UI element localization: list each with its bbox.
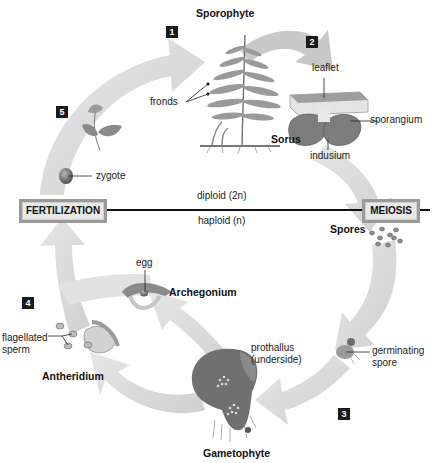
- archegonium-label: Archegonium: [169, 286, 237, 298]
- step-marker-3: 3: [338, 408, 350, 420]
- step-marker-5: 5: [56, 106, 68, 118]
- fronds-pointer: [186, 83, 209, 102]
- germinating-spore-label-line1: germinating: [372, 345, 424, 356]
- fern-life-cycle-diagram: [0, 0, 433, 463]
- arrow-to-fertilization: [40, 218, 90, 335]
- sporangium-label: sporangium: [370, 114, 422, 126]
- prothallus-label-line2: (underside): [251, 354, 302, 365]
- diploid-label: diploid (2n): [197, 190, 246, 202]
- germinating-spore-label: germinating spore: [372, 345, 424, 368]
- zygote-label: zygote: [96, 170, 125, 182]
- arrow-to-germinating-spore: [335, 240, 396, 350]
- zygote-illustration: [59, 168, 92, 184]
- fertilization-box: FERTILIZATION: [19, 199, 107, 223]
- gametophyte-label: Gametophyte: [203, 447, 270, 459]
- haploid-label: haploid (n): [198, 215, 245, 227]
- prothallus-label-line1: prothallus: [251, 342, 294, 353]
- leaflet-label: leaflet: [312, 62, 339, 74]
- spores-label: Spores: [330, 223, 366, 235]
- spores-illustration: [370, 227, 403, 247]
- sporophyte-fern-illustration: [200, 35, 281, 154]
- meiosis-box: MEIOSIS: [362, 199, 420, 223]
- step-marker-1: 1: [166, 26, 178, 38]
- sorus-label: Sorus: [271, 133, 301, 145]
- sporophyte-label: Sporophyte: [196, 7, 254, 19]
- flagellated-sperm-label-line2: sperm: [2, 344, 30, 355]
- egg-label: egg: [136, 257, 153, 269]
- flagellated-sperm-label-line1: flagellated: [2, 332, 48, 343]
- gametophyte-prothallus-illustration: [192, 349, 258, 442]
- germinating-spore-label-line2: spore: [372, 357, 397, 368]
- step-marker-2: 2: [306, 36, 318, 48]
- step-marker-4: 4: [22, 297, 34, 309]
- fronds-label: fronds: [150, 96, 178, 108]
- arrow-to-gametophyte: [255, 355, 350, 425]
- prothallus-label: prothallus (underside): [251, 342, 302, 365]
- arrow-to-antheridium: [90, 352, 205, 413]
- antheridium-label: Antheridium: [42, 370, 104, 382]
- flagellated-sperm-label: flagellated sperm: [2, 332, 48, 355]
- indusium-label: indusium: [310, 150, 350, 162]
